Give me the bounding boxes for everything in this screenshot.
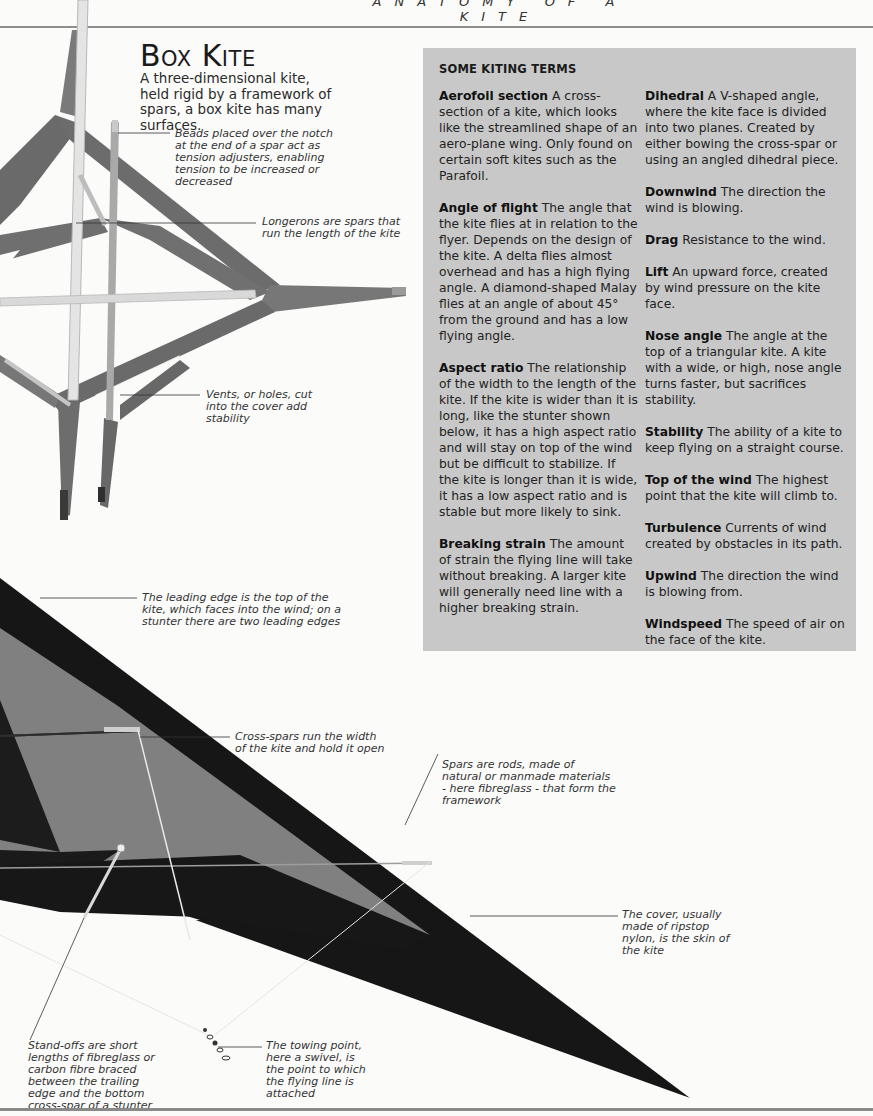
term-entry: Nose angle The angle at the top of a tri…: [645, 328, 845, 408]
stunter-kite-image: [0, 578, 690, 1116]
term-entry: Turbulence Currents of wind created by o…: [645, 520, 845, 552]
kiting-terms-panel: SOME KITING TERMS Aerofoil section A cro…: [423, 48, 856, 651]
term-entry: Drag Resistance to the wind.: [645, 232, 845, 248]
term-entry: Stability The ability of a kite to keep …: [645, 424, 845, 456]
term-entry: Dihedral A V-shaped angle, where the kit…: [645, 88, 845, 168]
callout-leading-edge: The leading edge is the top of the kite,…: [142, 592, 342, 628]
term-entry: Breaking strain The amount of strain the…: [439, 536, 639, 616]
term-entry: Angle of flight The angle that the kite …: [439, 200, 639, 344]
page-title: Box Kite: [140, 38, 256, 73]
term-entry: Windspeed The speed of air on the face o…: [645, 616, 845, 648]
callout-vents: Vents, or holes, cut into the cover add …: [206, 389, 326, 425]
callout-beads: Beads placed over the notch at the end o…: [175, 128, 335, 188]
term-entry: Aspect ratio The relationship of the wid…: [439, 360, 639, 520]
callout-stand-offs: Stand-offs are short lengths of fibregla…: [28, 1040, 163, 1112]
callout-cross-spars: Cross-spars run the width of the kite an…: [235, 731, 385, 755]
term-entry: Top of the wind The highest point that t…: [645, 472, 845, 504]
page-subtitle: A three-dimensional kite, held rigid by …: [140, 71, 340, 133]
bottom-rule: [0, 1108, 873, 1111]
callout-cover: The cover, usually made of ripstop nylon…: [622, 909, 742, 957]
term-entry: Downwind The direction the wind is blowi…: [645, 184, 845, 216]
callout-longerons: Longerons are spars that run the length …: [262, 216, 412, 240]
terms-column-right: Dihedral A V-shaped angle, where the kit…: [645, 88, 845, 664]
terms-column-left: Aerofoil section A cross-section of a ki…: [439, 88, 639, 632]
term-entry: Upwind The direction the wind is blowing…: [645, 568, 845, 600]
term-entry: Aerofoil section A cross-section of a ki…: [439, 88, 639, 184]
callout-spars: Spars are rods, made of natural or manma…: [442, 759, 617, 807]
terms-heading: SOME KITING TERMS: [439, 62, 576, 76]
callout-towing-point: The towing point, here a swivel, is the …: [266, 1040, 366, 1100]
term-entry: Lift An upward force, created by wind pr…: [645, 264, 845, 312]
